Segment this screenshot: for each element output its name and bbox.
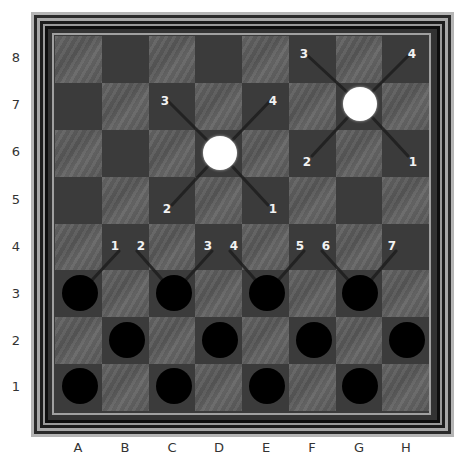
square-f4[interactable] — [289, 224, 336, 271]
square-e7[interactable] — [242, 83, 289, 130]
square-g4[interactable] — [336, 224, 383, 271]
square-f3[interactable] — [289, 270, 336, 317]
square-d7[interactable] — [195, 83, 242, 130]
square-b6[interactable] — [102, 130, 149, 177]
rank-label: 5 — [12, 193, 20, 206]
square-a4[interactable] — [55, 224, 102, 271]
file-label: F — [308, 441, 315, 454]
square-a2[interactable] — [55, 317, 102, 364]
square-d5[interactable] — [195, 177, 242, 224]
rank-label: 3 — [12, 287, 20, 300]
square-d3[interactable] — [195, 270, 242, 317]
square-e4[interactable] — [242, 224, 289, 271]
square-h7[interactable] — [382, 83, 429, 130]
square-c4[interactable] — [149, 224, 196, 271]
file-label: G — [354, 441, 364, 454]
square-d6[interactable] — [195, 130, 242, 177]
square-g5[interactable] — [336, 177, 383, 224]
square-c6[interactable] — [149, 130, 196, 177]
square-h2[interactable] — [382, 317, 429, 364]
square-b8[interactable] — [102, 36, 149, 83]
rank-label: 8 — [12, 51, 20, 64]
file-label: C — [167, 441, 176, 454]
square-g6[interactable] — [336, 130, 383, 177]
square-a8[interactable] — [55, 36, 102, 83]
square-b4[interactable] — [102, 224, 149, 271]
square-g3[interactable] — [336, 270, 383, 317]
rank-label: 6 — [12, 145, 20, 158]
square-e6[interactable] — [242, 130, 289, 177]
square-c2[interactable] — [149, 317, 196, 364]
square-c8[interactable] — [149, 36, 196, 83]
square-a6[interactable] — [55, 130, 102, 177]
rank-label: 2 — [12, 334, 20, 347]
file-label: B — [121, 441, 130, 454]
square-d8[interactable] — [195, 36, 242, 83]
square-f2[interactable] — [289, 317, 336, 364]
checkerboard[interactable] — [55, 36, 429, 411]
square-a3[interactable] — [55, 270, 102, 317]
square-d4[interactable] — [195, 224, 242, 271]
square-f8[interactable] — [289, 36, 336, 83]
square-e1[interactable] — [242, 364, 289, 411]
square-e5[interactable] — [242, 177, 289, 224]
square-b2[interactable] — [102, 317, 149, 364]
square-a7[interactable] — [55, 83, 102, 130]
rank-label: 7 — [12, 98, 20, 111]
file-label: A — [74, 441, 83, 454]
file-label: H — [401, 441, 411, 454]
square-h6[interactable] — [382, 130, 429, 177]
square-f1[interactable] — [289, 364, 336, 411]
square-c1[interactable] — [149, 364, 196, 411]
square-e8[interactable] — [242, 36, 289, 83]
square-b3[interactable] — [102, 270, 149, 317]
square-e2[interactable] — [242, 317, 289, 364]
square-c3[interactable] — [149, 270, 196, 317]
square-h3[interactable] — [382, 270, 429, 317]
square-b5[interactable] — [102, 177, 149, 224]
file-label: D — [214, 441, 224, 454]
square-e3[interactable] — [242, 270, 289, 317]
square-d2[interactable] — [195, 317, 242, 364]
square-a1[interactable] — [55, 364, 102, 411]
square-h4[interactable] — [382, 224, 429, 271]
square-h8[interactable] — [382, 36, 429, 83]
square-b7[interactable] — [102, 83, 149, 130]
square-f7[interactable] — [289, 83, 336, 130]
square-c7[interactable] — [149, 83, 196, 130]
rank-label: 4 — [12, 240, 20, 253]
square-b1[interactable] — [102, 364, 149, 411]
rank-label: 1 — [12, 380, 20, 393]
square-h1[interactable] — [382, 364, 429, 411]
square-h5[interactable] — [382, 177, 429, 224]
square-a5[interactable] — [55, 177, 102, 224]
square-g1[interactable] — [336, 364, 383, 411]
square-g7[interactable] — [336, 83, 383, 130]
square-f6[interactable] — [289, 130, 336, 177]
square-g2[interactable] — [336, 317, 383, 364]
file-label: E — [262, 441, 270, 454]
square-c5[interactable] — [149, 177, 196, 224]
square-g8[interactable] — [336, 36, 383, 83]
square-f5[interactable] — [289, 177, 336, 224]
square-d1[interactable] — [195, 364, 242, 411]
